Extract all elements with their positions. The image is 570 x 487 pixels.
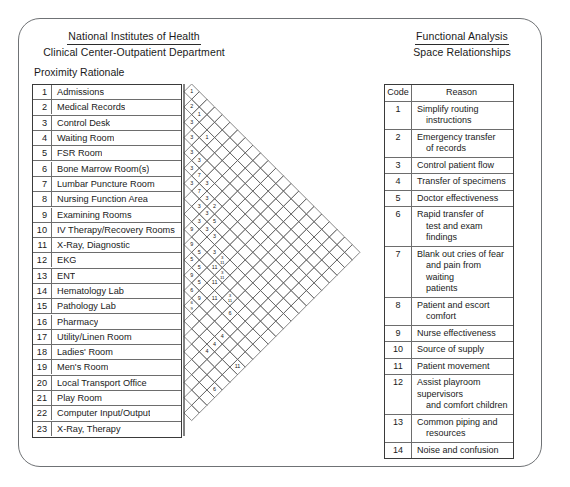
matrix-cell [322,222,337,237]
matrix-cell [215,237,230,252]
matrix-cell [314,260,329,275]
matrix-cell [222,168,237,183]
matrix-cell [276,222,291,237]
matrix-cell-code: 3 [198,157,201,163]
matrix-cell [261,298,276,313]
activity-number: 5 [33,146,52,160]
matrix-cell [222,214,237,229]
reason-line-2: and comfort children [417,400,511,412]
matrix-cell [314,229,329,244]
matrix-cell [253,306,268,321]
reason-description: Simplify routinginstructions [412,102,513,129]
reason-description: Patient and escortcomfort [412,298,513,325]
matrix-cell-code: 3 [205,226,208,232]
matrix-cell [222,275,237,290]
reason-description: Doctor effectiveness [412,191,513,207]
matrix-cell-code: 1 [205,134,208,140]
matrix-cell [215,160,230,175]
matrix-cell [291,206,306,221]
matrix-cell [238,321,253,336]
matrix-cell [245,237,260,252]
matrix-cell [337,252,352,267]
matrix-cell [299,275,314,290]
matrix-cell [207,352,222,367]
matrix-cell [245,283,260,298]
matrix-cell-code: 3 [213,249,216,255]
reason-row: 9Nurse effectiveness [385,326,513,343]
activity-row: 5FSR Room [33,146,181,161]
reason-code: 10 [385,342,412,358]
matrix-cell [238,214,253,229]
matrix-cell-code: 4 [213,341,216,347]
reason-line-1: Control patient flow [417,160,494,170]
activity-row: 18Ladies' Room [33,345,181,360]
matrix-cell [230,344,245,359]
reason-row: 3Control patient flow [385,158,513,175]
matrix-cell [253,199,268,214]
matrix-cell [184,329,199,344]
matrix-cell [283,199,298,214]
activity-row: 20Local Transport Office [33,376,181,391]
matrix-cell [306,283,321,298]
matrix-cell [299,229,314,244]
activity-number: 14 [33,284,52,298]
activity-number: 13 [33,269,52,283]
matrix-cell-code: 5 [213,218,216,224]
reason-line-1: Nurse effectiveness [417,328,496,338]
matrix-cell [207,168,222,183]
matrix-cell [222,336,237,351]
activity-number: 12 [33,253,52,267]
activity-number: 7 [33,177,52,191]
matrix-cell [283,229,298,244]
matrix-cell [230,283,245,298]
matrix-cell [261,237,276,252]
reason-line-1: Assist playroom supervisors [417,377,481,399]
matrix-cell [192,321,207,336]
reason-row: 5Doctor effectiveness [385,191,513,208]
matrix-cell [329,260,344,275]
matrix-cell [222,260,237,275]
matrix-cell [222,138,237,153]
matrix-cell-code: 11 [212,279,218,285]
matrix-cell-code: 3 [190,149,193,155]
matrix-cell [268,214,283,229]
activity-label: X-Ray, Therapy [52,422,121,436]
reason-code: 3 [385,158,412,174]
reason-line-1: Noise and confusion [417,445,499,455]
matrix-cell-code: 3 [205,195,208,201]
matrix-cell [230,130,245,145]
matrix-cell [261,222,276,237]
activity-row: 17Utility/Linen Room [33,330,181,345]
matrix-cell [199,313,214,328]
page-title: Proximity Rationale [34,66,124,78]
matrix-cell [184,405,199,420]
matrix-cell [276,191,291,206]
activity-row: 19Men's Room [33,360,181,375]
left-header: National Institutes of Health Clinical C… [34,30,234,59]
matrix-cell [245,222,260,237]
activity-label: IV Therapy/Recovery Rooms [52,223,175,237]
reason-line-1: Simplify routing [417,104,479,114]
matrix-cell [276,176,291,191]
activity-row: 15Pathology Lab [33,299,181,314]
matrix-cell [222,199,237,214]
matrix-cell [283,260,298,275]
activity-number: 15 [33,299,52,313]
matrix-cell [215,359,230,374]
matrix-cell-code: 2 [190,103,193,109]
matrix-cell-code: 9 [190,226,193,232]
matrix-cell [199,359,214,374]
activity-label: Hematology Lab [52,284,124,298]
reason-description: Noise and confusion [412,443,513,459]
matrix-cell [238,260,253,275]
reason-line-2: of records [417,143,511,155]
activity-row: 21Play Room [33,391,181,406]
matrix-cell [314,214,329,229]
activity-label: Pathology Lab [52,299,116,313]
activity-number: 16 [33,315,52,329]
matrix-cell [230,237,245,252]
activity-number: 8 [33,192,52,206]
reason-line-2: comfort [417,311,511,323]
reason-code: 6 [385,207,412,246]
matrix-cell [222,183,237,198]
